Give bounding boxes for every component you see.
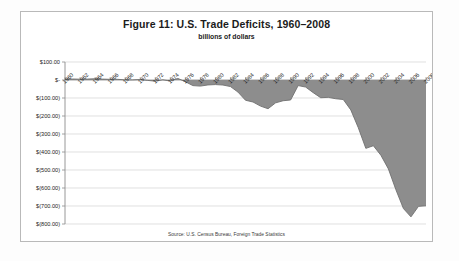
y-axis-tick-label: $(300.00) [36, 131, 60, 137]
x-axis-tick-label: 1960 [61, 72, 74, 85]
y-axis-tick-label: $- [55, 77, 60, 83]
y-axis-tick-label: $(200.00) [36, 113, 60, 119]
chart-plot-area: $100.00$-$(100.00)$(200.00)$(300.00)$(40… [21, 12, 432, 241]
y-axis-tick-label: $(800.00) [36, 221, 60, 227]
figure-container: Figure 11: U.S. Trade Deficits, 1960–200… [0, 0, 459, 261]
x-axis-tick-label: 1962 [77, 72, 90, 85]
trade-deficit-area-series [65, 78, 426, 216]
chart-frame: Figure 11: U.S. Trade Deficits, 1960–200… [20, 11, 433, 242]
source-note: Source: U.S. Census Bureau, Foreign Trad… [21, 232, 432, 237]
y-axis-tick-labels: $100.00$-$(100.00)$(200.00)$(300.00)$(40… [36, 59, 60, 227]
y-axis-tick-label: $(600.00) [36, 185, 60, 191]
y-axis-tick-label: $(400.00) [36, 149, 60, 155]
x-axis-tick-label: 1970 [137, 72, 150, 85]
x-axis-tick-label: 1972 [152, 72, 165, 85]
y-axis-tick-label: $(500.00) [36, 167, 60, 173]
y-axis-tick-label: $(700.00) [36, 203, 60, 209]
y-axis-tick-label: $100.00 [40, 59, 60, 65]
x-axis-tick-label: 1964 [92, 72, 105, 85]
y-axis-tick-label: $(100.00) [36, 95, 60, 101]
area-fill [65, 78, 426, 216]
x-axis-tick-label: 1966 [107, 72, 120, 85]
x-axis-tick-label: 2008 [422, 72, 432, 85]
x-axis-tick-label: 1968 [122, 72, 135, 85]
